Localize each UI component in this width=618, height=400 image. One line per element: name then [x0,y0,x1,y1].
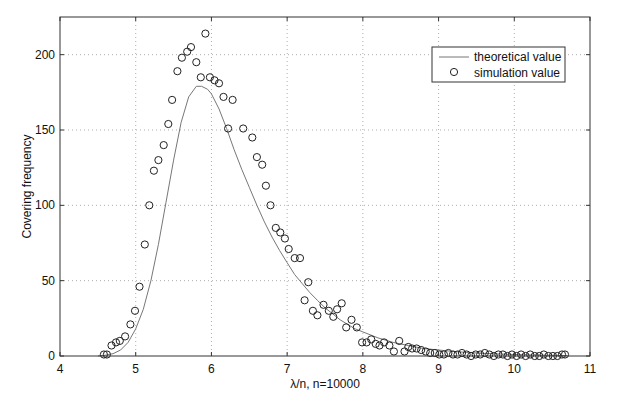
x-tick-label: 9 [435,362,442,376]
y-tick-label: 150 [35,123,55,137]
y-tick-label: 200 [35,48,55,62]
x-tick-label: 6 [208,362,215,376]
chart: 4567891011 050100150200 λ/n, n=10000 Cov… [0,0,618,400]
legend-label-simulation: simulation value [474,66,560,80]
x-tick-label: 4 [57,362,64,376]
legend-label-theoretical: theoretical value [474,50,562,64]
x-tick-label: 8 [360,362,367,376]
x-tick-label: 10 [508,362,522,376]
x-tick-label: 5 [132,362,139,376]
legend: theoretical value simulation value [432,47,565,82]
x-axis-label: λ/n, n=10000 [290,377,360,391]
x-tick-label: 11 [584,362,597,376]
y-tick-label: 0 [48,349,55,363]
y-tick-label: 50 [42,274,56,288]
x-tick-label: 7 [284,362,291,376]
y-tick-label: 100 [35,198,55,212]
y-axis-label: Covering frequency [20,134,34,238]
